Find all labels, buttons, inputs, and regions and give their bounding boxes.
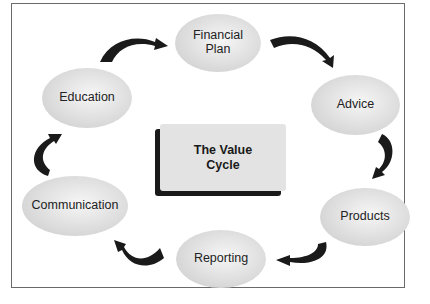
arrow-financial-plan-to-advice xyxy=(270,36,334,68)
node-label: Reporting xyxy=(194,252,248,266)
arrow-products-to-reporting xyxy=(276,242,327,266)
center-title-line: The Value xyxy=(194,143,252,157)
node-label: Education xyxy=(59,91,115,105)
node-label: Plan xyxy=(193,43,243,57)
node-label: Products xyxy=(340,210,389,224)
node-advice: Advice xyxy=(311,75,400,135)
center-title-box: The ValueCycle xyxy=(160,124,286,191)
arrow-communication-to-education xyxy=(34,134,62,176)
node-products: Products xyxy=(320,188,410,246)
node-label: Advice xyxy=(337,98,375,112)
node-reporting: Reporting xyxy=(176,230,266,288)
node-label: Communication xyxy=(32,199,119,213)
node-label: Financial xyxy=(193,29,243,43)
center-title-line: Cycle xyxy=(194,158,252,172)
node-financial-plan: FinancialPlan xyxy=(175,14,261,72)
arrow-advice-to-products xyxy=(372,134,393,179)
node-education: Education xyxy=(42,68,132,128)
node-communication: Communication xyxy=(22,176,128,236)
arrow-education-to-financial-plan xyxy=(100,38,168,62)
arrow-reporting-to-communication xyxy=(114,240,164,266)
